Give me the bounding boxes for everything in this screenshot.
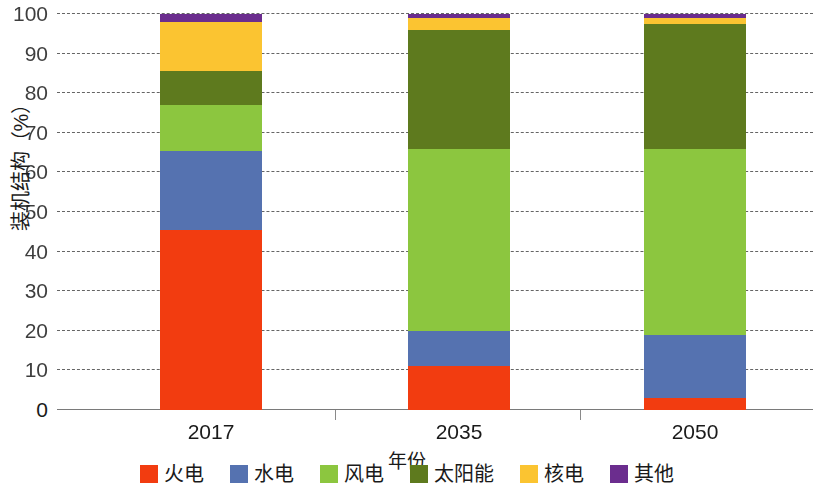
legend-label: 核电	[544, 464, 584, 484]
bar-group-2035[interactable]	[408, 14, 510, 410]
bar-segment-水电[interactable]	[644, 335, 746, 398]
bar-segment-水电[interactable]	[160, 151, 262, 230]
bar-group-2017[interactable]	[160, 14, 262, 410]
legend-label: 水电	[254, 464, 294, 484]
y-tick-label: 0	[36, 399, 48, 420]
x-axis-tick	[580, 410, 581, 420]
y-tick-label: 80	[25, 82, 48, 103]
legend-item-风电[interactable]: 风电	[320, 464, 384, 484]
bar-segment-风电[interactable]	[644, 149, 746, 335]
legend-label: 风电	[344, 464, 384, 484]
bar-segment-火电[interactable]	[644, 398, 746, 410]
bar-segment-风电[interactable]	[160, 105, 262, 151]
legend-swatch-icon	[520, 465, 538, 483]
bar-segment-太阳能[interactable]	[408, 30, 510, 149]
bar-stack	[160, 14, 262, 410]
y-tick-label: 40	[25, 241, 48, 262]
plot-area: 0102030405060708090100	[57, 14, 813, 410]
x-axis-label-2017: 2017	[188, 420, 235, 444]
bar-segment-太阳能[interactable]	[160, 71, 262, 105]
legend-item-其他[interactable]: 其他	[610, 464, 674, 484]
x-axis-label-2035: 2035	[436, 420, 483, 444]
x-axis-tick	[335, 410, 336, 420]
legend-label: 其他	[634, 464, 674, 484]
y-tick-label: 30	[25, 280, 48, 301]
y-tick-label: 50	[25, 201, 48, 222]
y-tick-label: 70	[25, 122, 48, 143]
legend-swatch-icon	[320, 465, 338, 483]
bar-segment-核电[interactable]	[644, 18, 746, 24]
bar-segment-其他[interactable]	[160, 14, 262, 22]
legend-swatch-icon	[410, 465, 428, 483]
bar-stack	[408, 14, 510, 410]
legend-swatch-icon	[610, 465, 628, 483]
bar-stack	[644, 14, 746, 410]
bar-segment-火电[interactable]	[160, 230, 262, 410]
legend-item-太阳能[interactable]: 太阳能	[410, 464, 494, 484]
legend-label: 火电	[164, 464, 204, 484]
legend-swatch-icon	[230, 465, 248, 483]
legend-item-水电[interactable]: 水电	[230, 464, 294, 484]
legend-item-火电[interactable]: 火电	[140, 464, 204, 484]
bar-segment-水电[interactable]	[408, 331, 510, 367]
bar-segment-太阳能[interactable]	[644, 24, 746, 149]
bar-segment-火电[interactable]	[408, 366, 510, 410]
legend-label: 太阳能	[434, 464, 494, 484]
y-tick-label: 60	[25, 161, 48, 182]
x-axis-label-2050: 2050	[672, 420, 719, 444]
bar-segment-核电[interactable]	[160, 22, 262, 72]
bar-segment-其他[interactable]	[408, 14, 510, 18]
stacked-bar-chart: 装机结构（%） 0102030405060708090100 201720352…	[0, 0, 813, 489]
chart-legend: 火电水电风电太阳能核电其他	[0, 464, 813, 484]
bar-group-2050[interactable]	[644, 14, 746, 410]
y-tick-label: 100	[13, 3, 48, 24]
bar-segment-核电[interactable]	[408, 18, 510, 30]
y-tick-label: 20	[25, 320, 48, 341]
bar-segment-其他[interactable]	[644, 14, 746, 18]
bar-segment-风电[interactable]	[408, 149, 510, 331]
legend-item-核电[interactable]: 核电	[520, 464, 584, 484]
legend-swatch-icon	[140, 465, 158, 483]
y-tick-label: 10	[25, 359, 48, 380]
y-tick-label: 90	[25, 43, 48, 64]
